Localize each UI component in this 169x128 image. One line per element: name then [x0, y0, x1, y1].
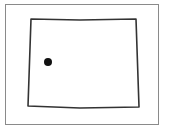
map-canvas: [0, 0, 169, 128]
location-marker[interactable]: [44, 58, 52, 66]
